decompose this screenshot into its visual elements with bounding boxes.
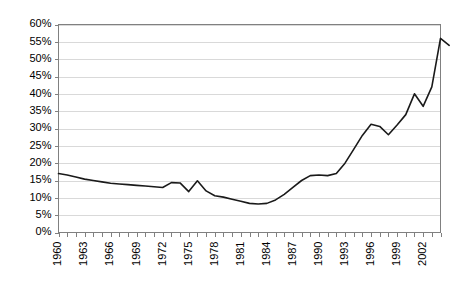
x-axis-tick-label: 1975 bbox=[182, 242, 194, 266]
x-axis-tick-label: 1999 bbox=[390, 242, 402, 266]
x-axis-tick-label: 1990 bbox=[312, 242, 324, 266]
x-axis-tick-label: 2002 bbox=[416, 242, 428, 266]
y-axis-tick-label: 45% bbox=[29, 69, 51, 81]
x-axis-tick-label: 1966 bbox=[103, 242, 115, 266]
x-axis-tick-label: 1963 bbox=[77, 242, 89, 266]
y-axis-tick-label: 5% bbox=[36, 208, 52, 220]
chart-svg: 0%5%10%15%20%25%30%35%40%45%50%55%60% 19… bbox=[0, 0, 458, 285]
x-axis-labels: 1960196319661969197219751978198119841987… bbox=[51, 242, 428, 266]
y-axis-tick-label: 0% bbox=[36, 225, 52, 237]
x-axis-tick-label: 1987 bbox=[286, 242, 298, 266]
x-axis-tick-label: 1960 bbox=[51, 242, 63, 266]
x-axis-tick-label: 1978 bbox=[208, 242, 220, 266]
x-axis-tick-label: 1996 bbox=[364, 242, 376, 266]
x-axis-tick-label: 1984 bbox=[260, 242, 272, 266]
y-axis-tick-label: 30% bbox=[29, 121, 51, 133]
y-axis-tick-label: 55% bbox=[29, 35, 51, 47]
y-axis-tick-label: 35% bbox=[29, 104, 51, 116]
x-axis-tick-label: 1972 bbox=[156, 242, 168, 266]
x-axis-tick-label: 1969 bbox=[130, 242, 142, 266]
y-axis-tick-label: 25% bbox=[29, 139, 51, 151]
y-axis-tick-label: 60% bbox=[29, 17, 51, 29]
line-chart: 0%5%10%15%20%25%30%35%40%45%50%55%60% 19… bbox=[0, 0, 458, 285]
y-axis-tick-label: 20% bbox=[29, 156, 51, 168]
y-axis-tick-label: 10% bbox=[29, 191, 51, 203]
x-axis-tick-label: 1993 bbox=[338, 242, 350, 266]
y-axis-tick-label: 40% bbox=[29, 87, 51, 99]
y-axis-tick-label: 50% bbox=[29, 52, 51, 64]
x-axis-tick-label: 1981 bbox=[234, 242, 246, 266]
y-axis-tick-label: 15% bbox=[29, 173, 51, 185]
